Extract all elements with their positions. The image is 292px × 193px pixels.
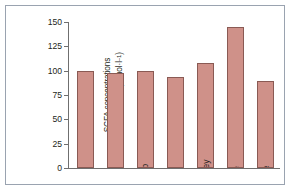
x-axis-line — [68, 168, 280, 169]
y-tick-mark — [64, 22, 68, 23]
bar-series: DogGoatSheepPigDonkeyCattleHorse — [69, 22, 280, 168]
y-tick-label: 25 — [52, 139, 62, 149]
bar-pig[interactable]: Pig — [167, 77, 184, 168]
y-tick-label: 0 — [57, 163, 62, 173]
y-tick-mark — [64, 71, 68, 72]
bar-cattle[interactable]: Cattle — [227, 27, 244, 168]
y-tick-mark — [64, 119, 68, 120]
bar-label-cattle: Cattle — [230, 128, 242, 168]
bar-donkey[interactable]: Donkey — [197, 63, 214, 168]
bar-horse[interactable]: Horse — [257, 81, 274, 168]
y-tick-label: 100 — [48, 66, 62, 76]
y-tick-mark — [64, 95, 68, 96]
chart-figure: SCFA concentrations in caecal fluid (mmo… — [0, 0, 292, 193]
bar-label-dog: Dog — [79, 128, 91, 168]
y-tick-label: 125 — [48, 41, 62, 51]
bar-sheep[interactable]: Sheep — [137, 71, 154, 168]
plot-area: 0255075100125150 DogGoatSheepPigDonkeyCa… — [68, 22, 280, 170]
bar-label-pig: Pig — [170, 128, 182, 168]
bar-label-sheep: Sheep — [139, 128, 151, 168]
y-tick-mark — [64, 144, 68, 145]
y-tick-label: 50 — [52, 114, 62, 124]
y-tick-label: 75 — [52, 90, 62, 100]
y-tick-label: 150 — [48, 17, 62, 27]
bar-dog[interactable]: Dog — [77, 71, 94, 168]
bar-label-horse: Horse — [260, 128, 272, 168]
bar-goat[interactable]: Goat — [107, 73, 124, 168]
y-tick-mark — [64, 168, 68, 169]
bar-label-donkey: Donkey — [200, 128, 212, 168]
y-tick-mark — [64, 46, 68, 47]
bar-label-goat: Goat — [109, 128, 121, 168]
